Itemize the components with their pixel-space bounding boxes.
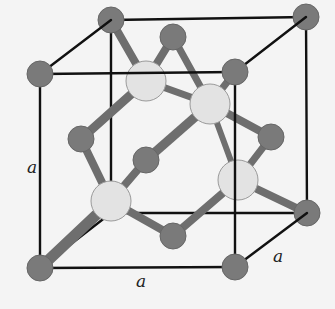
label-left-edge: a — [27, 157, 37, 177]
label-bottom-edge: a — [136, 271, 146, 291]
atom-face-bottom — [160, 223, 186, 249]
diamond-cubic-unit-cell: a a a — [0, 0, 335, 309]
edge-back-right — [306, 17, 307, 213]
atom-tetra-3 — [91, 181, 131, 221]
atom-face-top — [160, 24, 186, 50]
atom-corner-front-top-right — [222, 59, 248, 85]
atom-face-right — [258, 124, 284, 150]
atom-corner-front-bottom-right — [222, 254, 248, 280]
edge-front-bottom — [40, 267, 235, 268]
atom-corner-front-top-left — [27, 61, 53, 87]
atom-tetra-4 — [218, 160, 258, 200]
atom-face-left — [68, 126, 94, 152]
atom-face-center — [133, 147, 159, 173]
atom-tetra-1 — [126, 61, 166, 101]
atom-tetra-2 — [190, 84, 230, 124]
label-depth-edge: a — [273, 246, 283, 266]
atom-corner-front-bottom-left — [27, 255, 53, 281]
